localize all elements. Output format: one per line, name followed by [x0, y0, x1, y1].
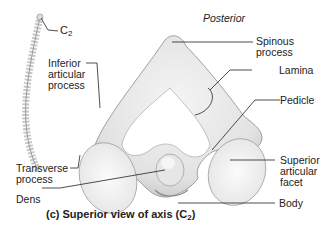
caption-text: (c) Superior view of axis (C — [46, 208, 187, 220]
c2-subscript: 2 — [68, 29, 72, 38]
label-dens: Dens — [16, 194, 41, 205]
label-inferior-articular-process: Inferior articular process — [48, 58, 85, 91]
spine-thumbnail — [26, 14, 43, 170]
label-superior-articular-facet: Superior articular facet — [280, 155, 320, 188]
label-lamina: Lamina — [279, 65, 313, 76]
label-pedicle: Pedicle — [280, 95, 314, 106]
c2-text: C — [60, 24, 68, 36]
c2-spine-label: C2 — [60, 25, 72, 36]
posterior-orientation-label: Posterior — [203, 13, 245, 24]
label-transverse-process: Transverse process — [16, 163, 68, 185]
caption-close: ) — [192, 208, 196, 220]
label-spinous-process: Spinous process — [256, 36, 294, 58]
label-body: Body — [279, 198, 303, 209]
figure-caption: (c) Superior view of axis (C2) — [46, 208, 195, 220]
vertebra-body — [70, 36, 275, 221]
